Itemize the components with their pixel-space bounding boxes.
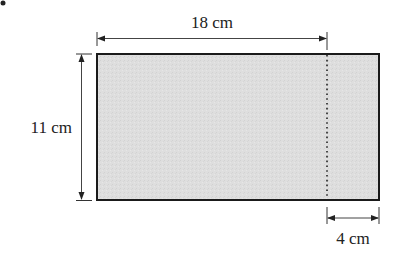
width-label: 18 cm: [191, 13, 233, 32]
width-dimension: 18 cm: [97, 13, 327, 50]
strip-label: 4 cm: [336, 229, 370, 248]
diagram-canvas: 18 cm 11 cm 4 cm: [0, 0, 399, 263]
rectangle-shape: [97, 54, 379, 200]
height-dimension: 11 cm: [31, 54, 92, 201]
strip-dimension: 4 cm: [327, 207, 379, 248]
height-label: 11 cm: [31, 118, 72, 137]
bullet-dot: [1, 1, 6, 6]
